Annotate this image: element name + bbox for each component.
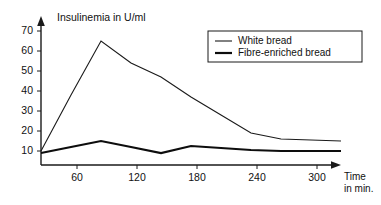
y-tick-label-60: 60: [15, 45, 33, 56]
x-axis-title-line1: Time: [344, 171, 366, 182]
y-tick-label-10: 10: [15, 145, 33, 156]
insulinemia-line-chart: Insulinemia in U/ml 70 60 50 40 30 20 10…: [0, 0, 381, 205]
x-tick-label-300: 300: [302, 172, 332, 183]
x-tick-label-180: 180: [182, 172, 212, 183]
x-axis-title-line2: in min.: [344, 183, 373, 194]
y-tick-label-40: 40: [15, 85, 33, 96]
x-axis-arrowhead: [331, 161, 341, 169]
y-axis-arrowhead: [37, 16, 45, 26]
y-axis-title: Insulinemia in U/ml: [57, 12, 146, 23]
y-tick-label-70: 70: [15, 25, 33, 36]
legend-label-fibre-enriched-bread: Fibre-enriched bread: [238, 47, 331, 58]
series-line-fibre-enriched-bread: [41, 141, 341, 153]
x-tick-label-240: 240: [242, 172, 272, 183]
x-tick-label-120: 120: [122, 172, 152, 183]
legend-label-white-bread: White bread: [238, 35, 292, 46]
x-tick-label-60: 60: [62, 172, 92, 183]
y-tick-label-50: 50: [15, 65, 33, 76]
y-tick-label-20: 20: [15, 125, 33, 136]
y-tick-label-30: 30: [15, 105, 33, 116]
x-axis: [41, 161, 341, 169]
